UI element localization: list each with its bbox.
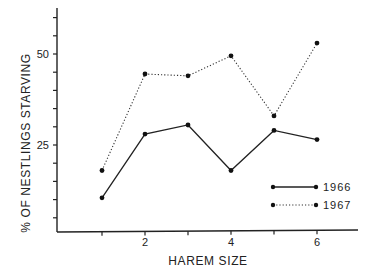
y-axis-title: % OF NESTLINGS STARVING [19, 53, 33, 232]
x-axis-line [57, 230, 358, 232]
line-chart: 2550246 19661967 HAREM SIZE % OF NESTLIN… [0, 0, 370, 276]
data-point-1966 [229, 168, 234, 173]
data-point-1966 [100, 195, 105, 200]
legend: 19661967 [271, 181, 352, 211]
x-tick-label: 4 [228, 236, 234, 248]
data-point-1967 [272, 113, 277, 118]
series-group [100, 41, 320, 201]
legend-marker [314, 203, 318, 207]
data-point-1967 [143, 72, 148, 77]
data-point-1967 [100, 168, 105, 173]
data-point-1966 [143, 132, 148, 137]
legend-label-1967: 1967 [323, 199, 351, 211]
legend-label-1966: 1966 [323, 181, 351, 193]
legend-marker [271, 203, 275, 207]
y-tick-label: 25 [37, 139, 49, 151]
data-point-1966 [315, 137, 320, 142]
x-tick-label: 2 [142, 236, 148, 248]
data-point-1966 [272, 128, 277, 133]
legend-marker [271, 185, 275, 189]
x-tick-label: 6 [314, 236, 320, 248]
series-line-1967 [102, 43, 317, 170]
x-axis-title: HAREM SIZE [168, 254, 247, 268]
data-point-1967 [315, 41, 320, 46]
axes: 2550246 [37, 8, 358, 248]
data-point-1966 [186, 123, 191, 128]
data-point-1967 [186, 73, 191, 78]
y-tick-label: 50 [37, 48, 49, 60]
data-point-1967 [229, 53, 234, 58]
legend-marker [314, 185, 318, 189]
